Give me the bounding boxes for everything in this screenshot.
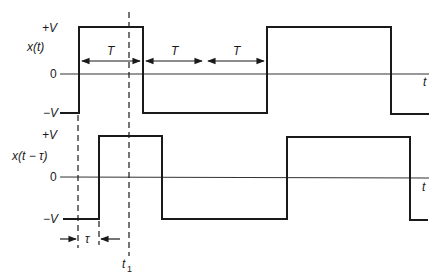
top-level-zero-label: 0 <box>50 67 57 81</box>
delay-annotation: τ <box>60 232 120 246</box>
t1-label: t <box>122 257 126 271</box>
period-label-2: T <box>171 44 180 58</box>
t1-marker-label: t 1 <box>122 257 132 274</box>
bottom-level-high-label: +V <box>42 128 58 142</box>
period-label-3: T <box>233 44 242 58</box>
square-wave-delay-diagram: +V x(t) 0 −V t T T T +V x(t − τ) 0 −V t … <box>0 0 442 280</box>
top-square-wave <box>60 27 429 114</box>
top-time-axis-label: t <box>423 75 427 89</box>
bottom-signal-label: x(t − τ) <box>11 149 48 163</box>
t1-subscript: 1 <box>127 264 132 274</box>
bottom-level-low-label: −V <box>43 212 59 226</box>
delay-label: τ <box>85 232 91 246</box>
bottom-plot: +V x(t − τ) 0 −V t <box>11 128 429 226</box>
top-level-low-label: −V <box>43 106 59 120</box>
bottom-time-axis-label: t <box>422 180 426 194</box>
bottom-level-zero-label: 0 <box>50 170 57 184</box>
top-signal-label: x(t) <box>26 40 44 54</box>
top-level-high-label: +V <box>42 21 58 35</box>
top-plot: +V x(t) 0 −V t T T T <box>26 21 429 120</box>
bottom-time-axis <box>60 177 429 178</box>
period-label-1: T <box>107 44 116 58</box>
